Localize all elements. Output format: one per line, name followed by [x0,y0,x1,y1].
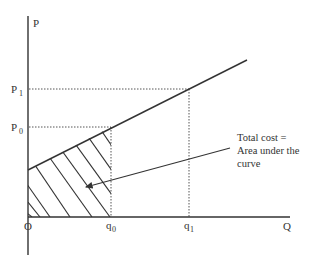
annotation-text: Total cost = Area under the curve [237,132,300,169]
svg-text:Total cost =: Total cost = [237,132,287,143]
svg-text:Area under the: Area under the [237,145,300,156]
svg-text:1: 1 [19,89,23,98]
price-label-p1: P 1 [11,83,23,98]
svg-text:1: 1 [190,225,194,234]
x-axis-label: Q [283,220,291,232]
hatched-area [10,108,120,217]
svg-text:0: 0 [19,127,23,136]
price-label-p0: P 0 [11,121,23,136]
quantity-label-q1: q 1 [184,219,194,234]
svg-text:P: P [11,83,17,95]
svg-text:P: P [11,121,17,133]
supply-curve [28,60,247,170]
guide-lines [29,89,189,217]
origin-label: O [24,220,32,232]
y-axis-label: P [33,17,39,29]
supply-curve-diagram: P Q O P 1 P 0 q 0 q 1 Total cost = Area … [0,0,310,267]
annotation-arrow [86,148,230,187]
svg-text:0: 0 [112,225,116,234]
quantity-label-q0: q 0 [106,219,116,234]
svg-text:curve: curve [237,158,261,169]
